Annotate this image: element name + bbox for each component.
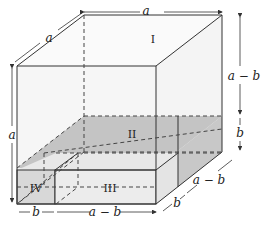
dim-right-upper: a − b bbox=[228, 69, 261, 83]
dim-depth-front: b bbox=[173, 196, 181, 210]
dim-bottom-left: b bbox=[32, 205, 40, 219]
dim-bottom-right: a − b bbox=[89, 205, 122, 219]
region-label-i: I bbox=[151, 33, 155, 46]
dim-right-lower: b bbox=[236, 126, 244, 140]
region-label-ii: II bbox=[128, 128, 137, 141]
cube-diagram: I II III IV a a a a − b b b a − b bbox=[0, 0, 263, 226]
dim-top-width: a bbox=[142, 4, 149, 18]
region-label-iv: IV bbox=[30, 182, 43, 195]
dim-left-height: a bbox=[8, 128, 15, 142]
dim-depth-back: a − b bbox=[193, 173, 226, 187]
dim-top-depth: a bbox=[45, 31, 52, 45]
region-label-iii: III bbox=[103, 182, 116, 195]
